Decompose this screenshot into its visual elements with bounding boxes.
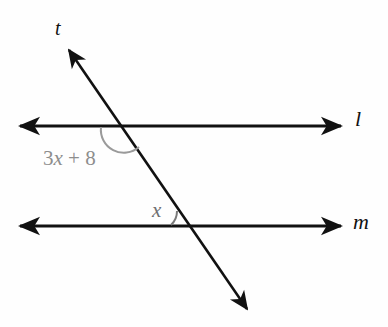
angle-arc-x [171, 211, 177, 225]
angle-constant: 8 [85, 146, 96, 170]
geometry-diagram: t l m 3x + 8 x [0, 0, 388, 327]
angle-variable: x [54, 146, 63, 170]
line-t-transversal [69, 50, 247, 309]
angle-arc-3x-plus-8 [101, 127, 139, 153]
angle-label-x: x [152, 200, 161, 221]
line-label-m: m [353, 211, 369, 233]
line-label-l: l [355, 108, 361, 130]
angle-label-3x-plus-8: 3x + 8 [43, 148, 96, 169]
line-label-t: t [55, 18, 61, 38]
angle-operator: + [68, 146, 80, 170]
angle-coefficient: 3 [43, 146, 54, 170]
